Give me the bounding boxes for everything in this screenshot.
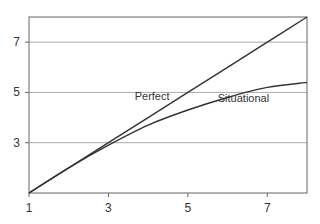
series-lines <box>29 17 307 193</box>
y-tick-label: 5 <box>13 85 20 99</box>
annotation-situational: Situational <box>218 92 269 104</box>
x-axis: 1357 <box>26 193 271 215</box>
x-tick-label: 1 <box>26 201 33 215</box>
x-tick-label: 7 <box>264 201 271 215</box>
annotation-perfect: Perfect <box>135 90 170 102</box>
y-axis: 357 <box>13 35 29 150</box>
y-tick-label: 3 <box>13 136 20 150</box>
x-tick-label: 5 <box>185 201 192 215</box>
chart: 1357 357 PerfectSituational <box>0 0 320 224</box>
y-tick-label: 7 <box>13 35 20 49</box>
x-tick-label: 3 <box>105 201 112 215</box>
